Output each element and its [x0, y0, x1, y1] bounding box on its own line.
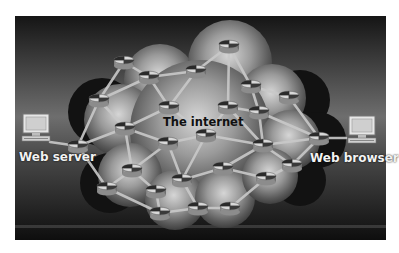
router-icon [172, 174, 192, 187]
router-icon [219, 40, 239, 53]
router-icon [249, 106, 269, 119]
router-icon [139, 71, 159, 84]
router-icon [150, 207, 170, 220]
router-icon [89, 94, 109, 107]
router-icon [122, 164, 142, 177]
computer-icon [22, 114, 50, 141]
router-icon [159, 101, 179, 114]
router-icon [253, 139, 273, 152]
router-icon [146, 185, 166, 198]
router-icon [97, 182, 117, 195]
router-icon [220, 202, 240, 215]
computer-icon [348, 116, 376, 143]
router-icon [196, 129, 216, 142]
router-icon [188, 202, 208, 215]
web-browser-label: Web browser [310, 151, 399, 165]
router-icon [114, 56, 134, 69]
web-server [22, 114, 50, 141]
network-link [228, 46, 229, 107]
router-icon [309, 132, 329, 145]
router-icon [282, 159, 302, 172]
router-icon [256, 172, 276, 185]
web-browser [348, 116, 376, 143]
router-icon [213, 162, 233, 175]
router-icon [241, 80, 261, 93]
router-icon [158, 137, 178, 150]
router-icon [115, 122, 135, 135]
router-icon [218, 101, 238, 114]
web-server-label: Web server [19, 150, 96, 164]
router-icon [186, 65, 206, 78]
internet-cloud-label: The internet [163, 115, 243, 129]
router-icon [279, 91, 299, 104]
